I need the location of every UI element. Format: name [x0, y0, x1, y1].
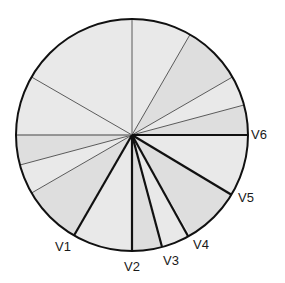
- lead-label-v3: V3: [163, 253, 179, 268]
- lead-label-v2: V2: [124, 259, 140, 274]
- precordial-lead-diagram: V1 V2 V3 V4 V5 V6: [0, 0, 285, 283]
- lead-label-v6: V6: [251, 127, 267, 142]
- lead-label-v1: V1: [55, 239, 71, 254]
- lead-label-v5: V5: [238, 190, 254, 205]
- lead-label-v4: V4: [193, 237, 209, 252]
